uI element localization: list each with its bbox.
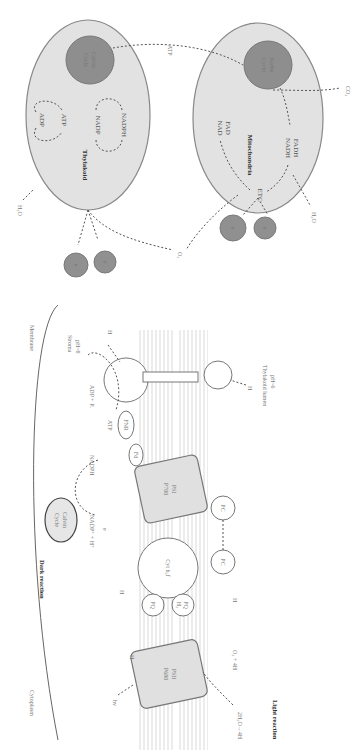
nad-label: NAD <box>216 120 224 135</box>
fad-label: FAD <box>224 121 232 134</box>
h-psii-label: H <box>129 655 135 660</box>
pq-label: PQ <box>150 601 156 609</box>
light-label: hν <box>112 700 118 706</box>
o2-4h-label: O₂ + 4H <box>232 650 238 671</box>
h-lumen-label: H <box>247 386 253 391</box>
h2o-input-arrow <box>23 190 33 200</box>
atp-synthase-head <box>104 358 148 402</box>
mito-output-e-1: e <box>230 227 236 230</box>
calvin-label-2: Cycle <box>83 53 89 67</box>
nadh-label: NADH <box>284 138 292 158</box>
nadp-h-label: NADP⁺ + H⁺ <box>89 515 95 548</box>
psi-complex <box>134 454 209 524</box>
atp-synthase-base <box>204 361 232 389</box>
light-reaction-label: Light reaction <box>272 700 279 740</box>
fnr-label: FNR <box>123 419 129 431</box>
h-in-arrow <box>230 380 246 385</box>
thylakoid-label: Thylakoid <box>81 150 89 181</box>
atp-transfer-label: ATP <box>167 45 173 56</box>
fadh-label: FADH <box>292 139 300 158</box>
h-out-arrow <box>108 345 120 362</box>
nadph-label-bottom: NADPH <box>89 455 95 476</box>
nadp-label: NADP <box>94 115 102 134</box>
light-arrow <box>118 685 133 695</box>
calvin-bottom-label-2: Cycle <box>54 513 60 527</box>
mitochondria-label: Mitochondria <box>246 134 254 176</box>
mitochondria-organelle: Krebs Cycle NAD FAD Mitochondria NADH FA… <box>186 23 351 250</box>
calvin-bottom-label-1: Calvin <box>62 512 68 528</box>
calvin-label-1: Calvin <box>91 52 97 68</box>
pc-label-2: PC <box>220 558 226 565</box>
atp-synthase-stalk <box>143 372 198 382</box>
lumen-label-2: pH~6 <box>270 375 276 389</box>
stroma-label-1: Stroma <box>67 335 73 353</box>
thylakoid-o2-arrow <box>88 210 173 250</box>
lumen-label-1: Thylakoid lumen <box>262 365 268 406</box>
pc-label-1: PC <box>220 504 226 511</box>
h-stroma-label: H <box>107 330 113 335</box>
nadph-label: NADPH <box>120 113 128 137</box>
atp-label-bottom: ATP <box>107 420 113 431</box>
pqh2 <box>172 594 194 616</box>
thylakoid-output-arrow-2 <box>88 210 98 240</box>
atp-label: ATP <box>60 114 68 127</box>
thylakoid-organelle: Calvin Cycle ADP ATP NADP NADPH Thylakoi… <box>17 20 173 277</box>
cytb6f-label: Cyt b₆f <box>165 559 171 576</box>
pqh2-label-2: H₂ <box>176 602 182 608</box>
h2o-out-label: H₂O <box>311 212 317 223</box>
o2-label: O₂ <box>177 252 183 258</box>
water-split-label: 2H₂O→4H <box>237 712 243 740</box>
adp-label: ADP <box>38 113 46 127</box>
stroma-label-2: pH~8 <box>75 340 81 354</box>
h2o-input-label: H₂O <box>17 205 23 216</box>
krebs-cycle-circle <box>244 41 292 89</box>
psii-label-2: P680 <box>163 668 169 680</box>
thylakoid-output-arrow-1 <box>78 210 88 245</box>
mito-output-e-2: e <box>262 227 268 230</box>
krebs-label-2: Cycle <box>261 58 267 72</box>
h-pq-label: H <box>119 590 125 595</box>
pqh2-label-1: PQ <box>183 601 189 609</box>
dark-reaction-label: Dark reaction <box>39 560 46 599</box>
light-reaction-panel: Membrane Cytoplasm Dark reaction Light r… <box>29 305 279 750</box>
light-psi-label: e <box>102 528 108 531</box>
psi-label-1: PSI <box>171 485 177 494</box>
output-e-2: e <box>102 261 108 264</box>
etc-label: ETC <box>256 188 264 202</box>
diagram: Calvin Cycle ADP ATP NADP NADPH Thylakoi… <box>0 0 358 753</box>
fd-label: Fd <box>133 452 139 458</box>
cytoplasm-label: Cytoplasm <box>29 690 35 716</box>
membrane-label: Membrane <box>29 325 35 351</box>
h-pqh2-label: H <box>232 598 238 603</box>
co2-label: CO₂ <box>345 86 351 96</box>
krebs-label-1: Krebs <box>269 58 275 73</box>
output-e-1: e <box>73 264 79 267</box>
calvin-cycle-bottom <box>45 498 77 542</box>
adp-pi-label: ADP + Pᵢ <box>89 385 95 408</box>
psii-label-1: PSII <box>171 669 177 680</box>
calvin-cycle-circle <box>66 36 114 84</box>
psi-label-2: P700 <box>163 483 169 495</box>
